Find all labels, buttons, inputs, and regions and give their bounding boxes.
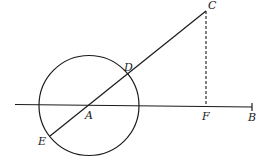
- label-B: B: [247, 111, 256, 124]
- label-A: A: [84, 109, 93, 122]
- label-C: C: [208, 0, 217, 12]
- label-E: E: [37, 135, 46, 148]
- label-D: D: [123, 61, 133, 74]
- horizontal-line-to-B: [15, 105, 252, 108]
- label-F: F: [201, 110, 210, 123]
- geometry-diagram: C D A F B E: [0, 0, 268, 165]
